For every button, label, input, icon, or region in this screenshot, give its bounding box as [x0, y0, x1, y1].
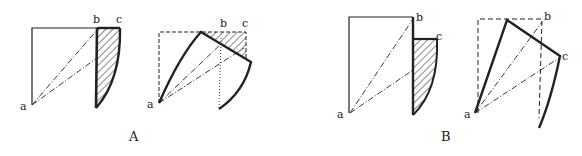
diagram-svg: a b c a b c A a b c a b c B: [0, 0, 582, 156]
point-label-c: c: [562, 50, 568, 63]
figure-a-original: a b c: [20, 13, 122, 113]
dashdot-line-ac: [350, 70, 413, 113]
point-label-a: a: [20, 100, 27, 113]
point-label-b: b: [544, 10, 551, 23]
dotted-vertical: [219, 38, 221, 109]
dashdot-line-ab: [350, 19, 413, 113]
point-label-b: b: [220, 17, 227, 30]
point-label-b: b: [93, 13, 100, 26]
point-label-a: a: [147, 98, 154, 111]
figure-b-deformed: a b c: [464, 10, 568, 128]
point-label-a: a: [337, 108, 344, 121]
point-label-b: b: [416, 11, 423, 24]
point-label-c: c: [242, 17, 248, 30]
deformed-outline: [475, 20, 560, 128]
original-frame-dashed: [478, 19, 542, 118]
figure-a-deformed: a b c: [147, 17, 251, 111]
point-label-a: a: [464, 108, 471, 121]
point-label-c: c: [116, 13, 122, 26]
dashdot-line-ab: [159, 44, 221, 103]
figure-b-original: a b c: [337, 11, 442, 121]
panel-label-b: B: [441, 129, 451, 144]
diagram-canvas: a b c a b c A a b c a b c B: [0, 0, 582, 156]
dashdot-line-ac: [32, 58, 97, 105]
dashdot-line-ab: [32, 30, 97, 105]
panel-label-a: A: [128, 129, 139, 144]
frame-outline: [349, 17, 413, 113]
point-label-c: c: [436, 30, 442, 43]
member-bc-edge: [96, 28, 97, 108]
dashdot-line-ab: [475, 22, 542, 113]
